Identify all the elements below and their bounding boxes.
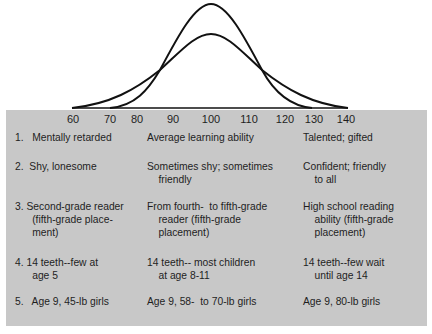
tick-100: 100 bbox=[202, 113, 220, 125]
tick-110: 110 bbox=[240, 113, 258, 125]
narrow-normal-curve bbox=[110, 4, 312, 108]
distribution-curves bbox=[0, 0, 432, 120]
row-4-high: 14 teeth--few wait until age 14 bbox=[303, 256, 384, 282]
row-3-low: 3. Second-grade reader (fifth-grade plac… bbox=[15, 200, 124, 239]
row-2-average: Sometimes shy; sometimes friendly bbox=[147, 160, 273, 186]
row-4-low: 4. 14 teeth--few at age 5 bbox=[15, 256, 98, 282]
row-1-high: Talented; gifted bbox=[303, 131, 373, 144]
row-3-high: High school reading ability (fifth-grade… bbox=[303, 200, 394, 239]
row-1-average: Average learning ability bbox=[147, 131, 254, 144]
row-1-low: 1. Mentally retarded bbox=[15, 131, 112, 144]
wide-normal-curve bbox=[72, 34, 348, 108]
tick-60: 60 bbox=[67, 113, 79, 125]
row-5-high: Age 9, 80-lb girls bbox=[303, 295, 380, 308]
row-2-low: 2. Shy, lonesome bbox=[15, 160, 97, 173]
row-5-low: 5. Age 9, 45-lb girls bbox=[15, 295, 109, 308]
row-3-average: From fourth- to fifth-grade reader (fift… bbox=[147, 200, 267, 239]
tick-120: 120 bbox=[276, 113, 294, 125]
row-2-high: Confident; friendly to all bbox=[303, 160, 386, 186]
row-4-average: 14 teeth-- most children at age 8-11 bbox=[147, 256, 255, 282]
tick-80: 80 bbox=[131, 113, 143, 125]
tick-130: 130 bbox=[305, 113, 323, 125]
tick-70: 70 bbox=[104, 113, 116, 125]
tick-90: 90 bbox=[167, 113, 179, 125]
row-5-average: Age 9, 58- to 70-lb girls bbox=[147, 295, 256, 308]
tick-140: 140 bbox=[337, 113, 355, 125]
